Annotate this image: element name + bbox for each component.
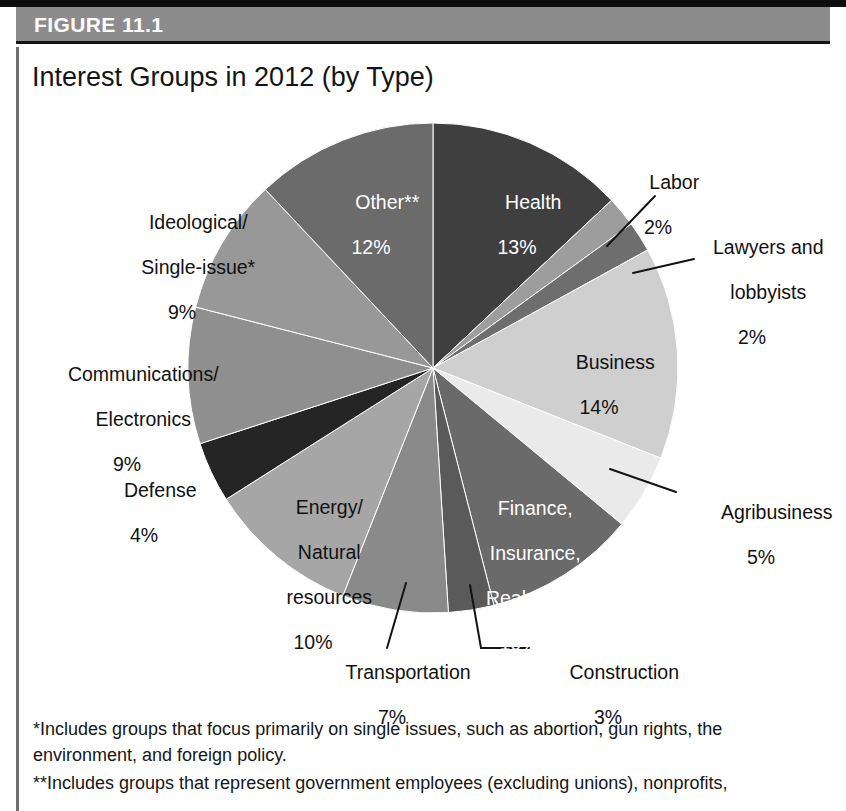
slice-label-business: Business 14% <box>519 328 679 464</box>
footnote-other: **Includes groups that represent governm… <box>33 770 823 796</box>
slice-label-other: Other** 12% <box>305 168 437 304</box>
footnote-single-issue: *Includes groups that focus primarily on… <box>33 716 823 768</box>
slice-label-ideological: Ideological/ Single-issue* 9% <box>92 188 272 369</box>
slice-label-lawyers: Lawyers and lobbyists 2% <box>666 213 838 394</box>
slice-label-health: Health 13% <box>447 168 587 304</box>
slice-label-agribusiness: Agribusiness 5% <box>679 478 843 614</box>
footnotes: *Includes groups that focus primarily on… <box>33 716 823 798</box>
figure-container: FIGURE 11.1 Interest Groups in 2012 (by … <box>0 0 846 811</box>
pie-chart: Health 13% Business 14% Finance, Insuran… <box>0 0 846 700</box>
